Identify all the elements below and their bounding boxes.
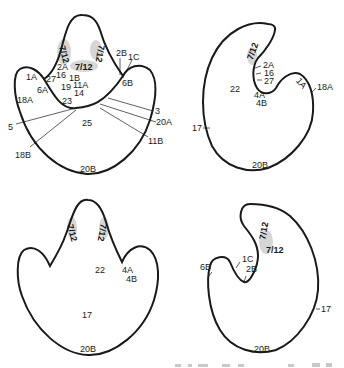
label-1C: 1C (242, 254, 254, 264)
label-2B: 2B (246, 264, 257, 274)
label-6B: 6B (200, 262, 211, 272)
label-3: 3 (155, 106, 160, 116)
label-25: 25 (82, 118, 92, 128)
leader-16 (256, 73, 261, 74)
label-20B: 20B (80, 164, 96, 174)
label-11B: 11B (148, 136, 163, 146)
label-4B: 4B (126, 274, 137, 284)
label-22: 22 (95, 265, 105, 275)
label-18A: 18A (317, 82, 333, 92)
caption-partial (175, 363, 332, 367)
label-20A: 20A (156, 117, 172, 127)
leader-11B (100, 108, 148, 137)
label-19: 19 (61, 82, 71, 92)
outline-back-view (18, 200, 158, 355)
label-27: 27 (264, 76, 274, 86)
leader-18B (30, 110, 76, 147)
label-20B: 20B (252, 160, 268, 170)
label-2B: 2B (116, 48, 127, 58)
label-14: 14 (74, 88, 84, 98)
label-shade-center: 7/12 (75, 62, 93, 72)
label-20B: 20B (80, 344, 96, 354)
label-22: 22 (230, 84, 240, 94)
label-1A: 1A (26, 72, 37, 82)
label-shade-left: 7/12 (65, 223, 79, 243)
label-18A: 18A (17, 95, 33, 105)
label-27: 27 (46, 74, 56, 84)
leader-18A (312, 88, 316, 92)
label-6B: 6B (122, 78, 133, 88)
label-17: 17 (192, 123, 202, 133)
figure-canvas: 7/12 7/12 7/12 2B 1C 6B 1A 2A 16 27 1B 1… (0, 0, 344, 368)
label-17: 17 (82, 310, 92, 320)
label-6A: 6A (37, 85, 48, 95)
panel-bottom-right: 7/12 7/12 6B 1C 2B 17 20B (200, 204, 331, 354)
panel-top-right: 7/12 2A 16 27 22 4A 4B 1A 18A 17 20B (192, 23, 333, 170)
label-20B: 20B (254, 344, 270, 354)
panel-bottom-left: 7/12 7/12 22 4A 4B 17 20B (18, 200, 158, 355)
label-4B: 4B (256, 98, 267, 108)
label-18B: 18B (15, 150, 31, 160)
leader-2B (244, 276, 246, 282)
label-1A: 1A (294, 76, 309, 91)
label-shade-right: 7/12 (96, 223, 109, 242)
label-5: 5 (8, 122, 13, 132)
label-shade-bottom: 7/12 (266, 245, 284, 255)
label-23: 23 (62, 96, 72, 106)
label-17: 17 (321, 304, 331, 314)
label-1C: 1C (128, 52, 140, 62)
leader-1C (236, 262, 240, 268)
label-16: 16 (56, 70, 66, 80)
outline-front-view (15, 15, 156, 174)
leader-5 (16, 108, 76, 124)
leader-2A (255, 66, 261, 68)
panel-top-left: 7/12 7/12 7/12 2B 1C 6B 1A 2A 16 27 1B 1… (8, 15, 172, 174)
